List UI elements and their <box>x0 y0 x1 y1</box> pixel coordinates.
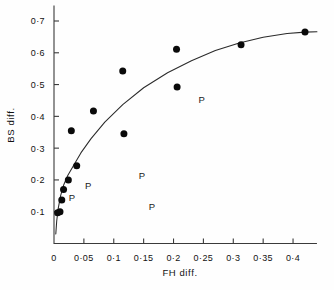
x-tick-label: 0·3 <box>226 253 240 263</box>
data-point-marker <box>68 127 75 134</box>
data-point-marker <box>90 107 97 114</box>
data-point-marker <box>119 67 126 74</box>
data-point-marker <box>65 176 72 183</box>
axis-lines <box>54 5 317 243</box>
data-point-marker <box>238 41 245 48</box>
y-axis-title: BS diff. <box>5 107 16 142</box>
x-tick-labels: 00·050·10·150·20·250·30·350·4 <box>51 253 300 263</box>
y-tick-labels: 0·10·20·30·40·50·60·7 <box>31 16 45 217</box>
fit-curve-path <box>56 32 317 234</box>
p-annotation-label: P <box>69 192 75 203</box>
y-tick-label: 0·3 <box>31 144 45 154</box>
data-point-marker <box>302 29 309 36</box>
fitted-curve <box>56 32 317 234</box>
x-tick-label: 0 <box>51 253 56 263</box>
data-point-marker <box>58 196 65 203</box>
p-annotation-label: P <box>139 170 145 181</box>
tick-marks <box>54 21 293 244</box>
y-tick-label: 0·4 <box>31 112 45 122</box>
data-points <box>54 29 308 217</box>
x-tick-label: 0·4 <box>286 253 300 263</box>
scatter-plot-svg: 00·050·10·150·20·250·30·350·4 0·10·20·30… <box>0 0 334 290</box>
y-tick-label: 0·5 <box>31 80 45 90</box>
data-point-marker <box>73 162 80 169</box>
axes <box>54 5 317 243</box>
data-point-marker <box>173 46 180 53</box>
y-tick-label: 0·7 <box>31 16 45 26</box>
x-tick-label: 0·2 <box>166 253 180 263</box>
p-annotations: PPPPP <box>69 94 205 212</box>
y-tick-label: 0·6 <box>31 48 45 58</box>
data-point-marker <box>56 208 63 215</box>
x-tick-label: 0·35 <box>253 253 273 263</box>
y-tick-label: 0·2 <box>31 175 45 185</box>
p-annotation-label: P <box>149 201 155 212</box>
x-tick-label: 0·05 <box>74 253 94 263</box>
data-point-marker <box>60 186 67 193</box>
x-tick-label: 0·1 <box>107 253 121 263</box>
x-axis-title: FH diff. <box>162 267 197 278</box>
p-annotation-label: P <box>85 180 91 191</box>
data-point-marker <box>120 130 127 137</box>
y-tick-label: 0·1 <box>31 207 45 217</box>
x-tick-label: 0·15 <box>134 253 154 263</box>
x-tick-label: 0·25 <box>194 253 214 263</box>
p-annotation-label: P <box>198 94 204 105</box>
chart-figure: 00·050·10·150·20·250·30·350·4 0·10·20·30… <box>0 0 334 290</box>
data-point-marker <box>174 84 181 91</box>
